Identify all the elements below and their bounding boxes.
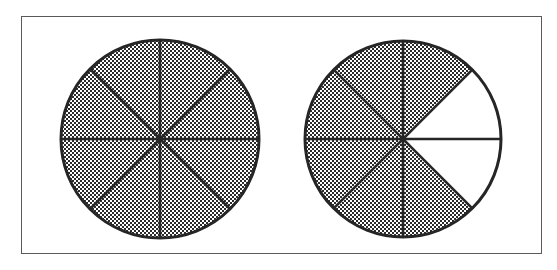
right-circle: [305, 41, 501, 237]
fraction-circles-diagram: [0, 0, 557, 270]
left-circle: [61, 40, 259, 238]
figure-root: [0, 0, 557, 270]
circles-layer: [61, 40, 501, 238]
